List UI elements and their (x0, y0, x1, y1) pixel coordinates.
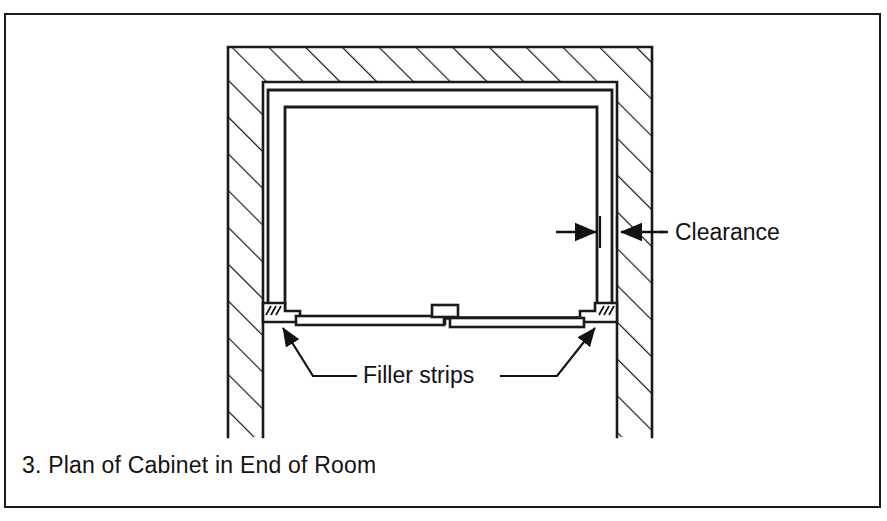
cabinet-door-left (296, 316, 444, 325)
wall-top (228, 47, 652, 82)
figure-caption: 3. Plan of Cabinet in End of Room (22, 452, 376, 479)
figure-page: Clearance Filler strips 3. Plan of Cabin… (0, 0, 887, 521)
cabinet-plan-drawing (0, 0, 887, 521)
filler-strips-label: Filler strips (363, 362, 474, 389)
wall-right (617, 47, 652, 437)
clearance-label: Clearance (675, 219, 780, 246)
wall-left (228, 47, 263, 437)
cabinet-door-right (450, 318, 584, 327)
cabinet-body (268, 90, 612, 318)
